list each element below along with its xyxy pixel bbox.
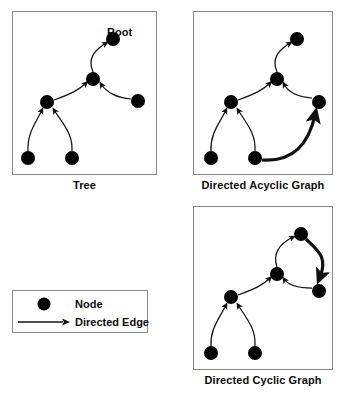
edge-mid-to-top (276, 237, 293, 267)
dcg-edges-thick (306, 239, 323, 277)
edge-top-to-right-thick (306, 239, 323, 277)
dag-edges-thin (211, 43, 312, 151)
dag-node-mid (270, 72, 284, 86)
edge-br-to-left (238, 110, 255, 151)
legend-item-node: Node (13, 295, 147, 313)
tree-node-mid (86, 72, 100, 86)
dag-node-top (290, 32, 304, 46)
dag-node-bottom-right (248, 151, 262, 165)
caption-directed-cyclic-graph: Directed Cyclic Graph (185, 374, 341, 386)
edge-left-to-mid (238, 278, 270, 295)
edge-br-to-left (238, 305, 255, 346)
tree-graph-svg (13, 12, 156, 174)
dag-edges-thick (262, 115, 315, 160)
root-node-label: Root (107, 26, 132, 38)
panel-tree: Root (12, 11, 157, 175)
tree-node-bottom-left (21, 151, 35, 165)
dcg-nodes (204, 227, 326, 360)
dag-node-left (224, 95, 238, 109)
caption-tree: Tree (12, 179, 157, 191)
dcg-graph-svg (194, 207, 332, 369)
tree-node-right (131, 94, 145, 108)
edge-bl-to-left (211, 110, 226, 151)
legend-item-directed-edge: Directed Edge (13, 313, 147, 331)
tree-node-left (40, 95, 54, 109)
edge-right-to-mid (284, 279, 312, 288)
panel-directed-cyclic-graph (193, 206, 333, 370)
edge-br-to-left (54, 110, 72, 151)
dcg-node-mid (270, 267, 284, 281)
node-dot-icon (13, 296, 75, 312)
panel-directed-acyclic-graph (193, 11, 333, 175)
edge-right-to-mid (101, 84, 131, 99)
legend-label-directed-edge: Directed Edge (75, 316, 149, 328)
edge-right-to-mid (284, 84, 312, 98)
dcg-node-bottom-left (204, 346, 218, 360)
legend-label-node: Node (75, 298, 103, 310)
caption-directed-acyclic-graph: Directed Acyclic Graph (185, 179, 341, 191)
dcg-node-bottom-right (248, 346, 262, 360)
dcg-edges-thin (211, 237, 312, 346)
dag-graph-svg (194, 12, 332, 174)
edge-mid-to-top (275, 43, 290, 72)
dcg-node-top (294, 227, 308, 241)
edge-left-to-mid (54, 83, 86, 100)
tree-node-bottom-right (65, 151, 79, 165)
arrow-line-icon (13, 316, 75, 328)
dag-nodes (204, 32, 326, 165)
edge-left-to-mid (238, 83, 270, 100)
edge-bl-to-left (28, 110, 42, 151)
dag-node-bottom-left (204, 151, 218, 165)
legend: Node Directed Edge (12, 290, 148, 333)
edge-br-to-right-thick (262, 115, 315, 160)
dag-node-right (312, 95, 326, 109)
edge-mid-to-root (91, 43, 106, 72)
dcg-node-left (224, 290, 238, 304)
dcg-node-right (312, 284, 326, 298)
edge-bl-to-left (211, 305, 226, 346)
